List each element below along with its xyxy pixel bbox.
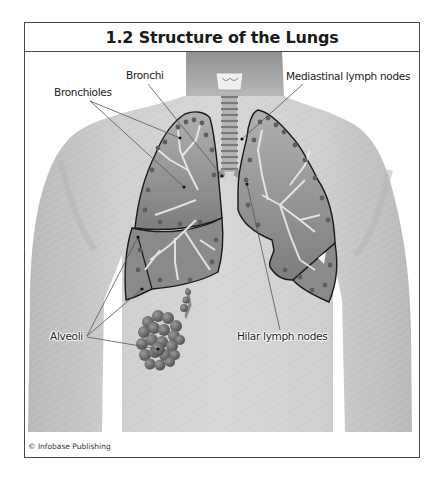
label-hilar-lymph-nodes: Hilar lymph nodes: [237, 330, 327, 342]
label-bronchioles: Bronchioles: [54, 86, 112, 98]
label-mediastinal-lymph-nodes: Mediastinal lymph nodes: [286, 70, 410, 82]
figure-title: 1.2 Structure of the Lungs: [106, 28, 339, 47]
copyright-credit: © Infobase Publishing: [28, 442, 111, 451]
title-bar: 1.2 Structure of the Lungs: [25, 23, 419, 52]
label-alveoli: Alveoli: [50, 330, 83, 342]
label-bronchi: Bronchi: [126, 69, 164, 81]
